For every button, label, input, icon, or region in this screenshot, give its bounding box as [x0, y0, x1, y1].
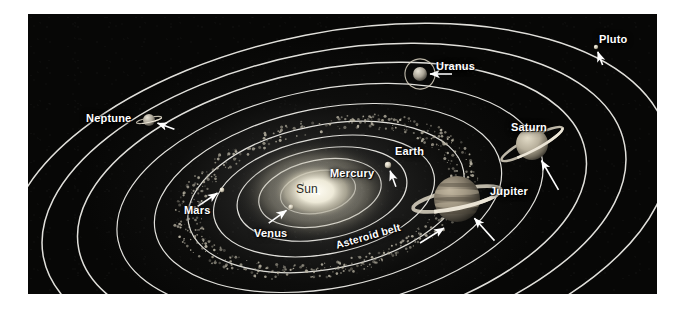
planet-label-mars: Mars — [184, 205, 210, 216]
space-plate: MercuryVenusEarthMarsJupiterSaturnUranus… — [28, 14, 657, 294]
planet-label-earth: Earth — [395, 146, 424, 157]
planet-label-venus: Venus — [254, 228, 287, 239]
planet-label-mercury: Mercury — [330, 168, 374, 179]
asteroid-belt-label: Asteroid belt — [335, 222, 402, 251]
sun-label: Sun — [296, 183, 318, 195]
label-layer: MercuryVenusEarthMarsJupiterSaturnUranus… — [28, 14, 657, 294]
planet-label-pluto: Pluto — [599, 34, 628, 45]
planet-label-neptune: Neptune — [86, 113, 131, 124]
planet-label-saturn: Saturn — [511, 122, 547, 133]
planet-label-jupiter: Jupiter — [490, 186, 528, 197]
planet-label-uranus: Uranus — [436, 61, 475, 72]
solar-system-figure: MercuryVenusEarthMarsJupiterSaturnUranus… — [0, 0, 685, 311]
